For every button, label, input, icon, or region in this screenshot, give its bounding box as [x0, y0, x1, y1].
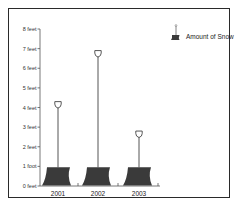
pictograph-chart: 0 feet1 foot2 feet3 feet4 feet5 feet6 fe… [0, 0, 241, 206]
y-tick-label: 2 feet [23, 144, 37, 150]
y-tick-label: 7 feet [23, 46, 37, 52]
legend: Amount of Snow [171, 25, 234, 40]
y-tick-label: 0 feet [23, 183, 37, 189]
shovel-bars [42, 51, 152, 186]
x-tick-label: 2002 [91, 190, 106, 197]
legend-label: Amount of Snow [186, 33, 234, 40]
x-tick-label: 2001 [51, 190, 66, 197]
x-tick-label: 2003 [132, 190, 147, 197]
y-tick-label: 5 feet [23, 85, 37, 91]
y-tick-label: 3 feet [23, 124, 37, 130]
shovel-bar-2001 [42, 102, 71, 186]
y-axis: 0 feet1 foot2 feet3 feet4 feet5 feet6 fe… [23, 26, 40, 189]
y-tick-label: 8 feet [23, 26, 37, 32]
y-tick-label: 4 feet [23, 105, 37, 111]
y-tick-label: 1 foot [23, 163, 37, 169]
y-tick-label: 6 feet [23, 65, 37, 71]
shovel-bar-2003 [123, 131, 152, 185]
legend-shovel-icon [171, 25, 180, 40]
shovel-bar-2002 [82, 51, 111, 186]
